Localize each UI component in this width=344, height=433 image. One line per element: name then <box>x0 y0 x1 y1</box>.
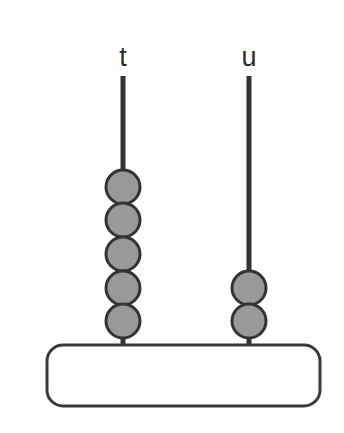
rod-label-t: t <box>119 42 127 72</box>
bead[interactable] <box>232 304 266 338</box>
bead[interactable] <box>106 271 140 305</box>
abacus-canvas: t u <box>0 0 344 433</box>
bead[interactable] <box>106 203 140 237</box>
bead-stack-t[interactable] <box>106 170 140 338</box>
bead-stack-u[interactable] <box>232 271 266 338</box>
rod-group-u[interactable]: u <box>232 42 266 349</box>
abacus-figure: t u <box>0 0 344 433</box>
bead[interactable] <box>232 271 266 305</box>
bead[interactable] <box>106 170 140 204</box>
bead[interactable] <box>106 304 140 338</box>
rod-label-u: u <box>241 42 256 72</box>
bead[interactable] <box>106 237 140 271</box>
rod-group-t[interactable]: t <box>106 42 140 349</box>
abacus-base-bar <box>47 345 320 406</box>
